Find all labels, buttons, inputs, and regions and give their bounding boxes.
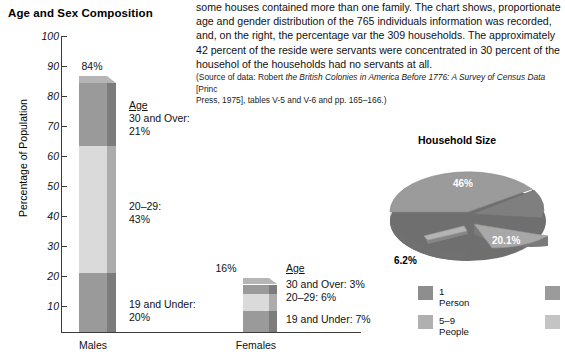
callout-males-30-text: 30 and Over: [129,112,190,125]
y-tick-label: 90 [7,60,59,72]
y-tick-mark [61,306,67,307]
callout-females: Age 30 and Over: 3% 20–29: 6% 19 and Und… [286,262,371,326]
y-tick-mark [61,246,67,247]
y-tick-group: 60 [0,150,59,162]
bar-segment-females-30-and-over [243,285,269,294]
y-tick-label: 60 [7,150,59,162]
source-tail: [Princ [196,84,217,94]
bar-segment-males-19-and-under [79,273,107,332]
y-axis-line [61,36,62,333]
bar-segment-side [269,294,277,312]
y-tick-mark [61,276,67,277]
y-tick-group: 80 [0,90,59,102]
y-tick-group: 50 [0,180,59,192]
bar-segment-side [269,311,277,332]
legend-swatch-icon [418,315,433,329]
callout-heading-males: Age [129,99,148,111]
bar-top-face-males [79,76,116,83]
bar-chart-title: Age and Sex Composition [8,7,153,19]
bar-segment-males-20-29 [79,146,107,273]
body-text-block: some houses contained more than one fami… [196,0,565,107]
y-tick-mark [61,96,67,97]
callout-males-20-29-value: 43% [129,213,161,226]
callout-males-30-value: 21% [129,125,190,138]
bar-segment-females-19-and-under [243,311,269,332]
callout-females-20-29-text: 20–29: 6% [286,291,371,304]
source-citation: (Source of data: Robert the British Colo… [196,72,565,107]
callout-males-30-and-over: Age 30 and Over: 21% [129,99,190,138]
legend-item-5-9-people[interactable]: 5–9 People [418,315,469,338]
y-tick-group: 70 [0,120,59,132]
y-tick-mark [61,186,67,187]
callout-females-19-text: 19 and Under: 7% [286,313,371,326]
callout-males-20-29-text: 20–29: [129,200,161,213]
callout-males-19-and-under: 19 and Under: 20% [129,298,196,324]
y-tick-group: 20 [0,270,59,282]
callout-females-30-text: 30 and Over: 3% [286,278,371,291]
source-last-line: Press, 1975], tables V-5 and V-6 and pp.… [196,95,565,107]
pie-label-6-2: 6.2% [394,255,417,266]
x-axis-line [61,332,361,333]
bar-segment-side [269,285,277,294]
bar-total-label-females: 16% [196,262,256,274]
legend-item-cropped-b[interactable] [545,315,565,329]
y-tick-label: 50 [7,180,59,192]
y-tick-label: 30 [7,240,59,252]
callout-heading-females: Age [286,262,305,274]
legend-item-cropped-a[interactable] [545,286,565,300]
y-tick-group: 90 [0,60,59,72]
x-axis-label-females: Females [211,339,301,351]
legend-item-1-person[interactable]: 1 Person [418,286,469,309]
y-tick-label: 80 [7,90,59,102]
x-axis-label-males: Males [48,339,138,351]
source-lead: (Source of data: Robert [196,72,285,82]
legend-swatch-icon [418,286,433,300]
y-tick-label: 40 [7,210,59,222]
bar-segment-females-20-29 [243,294,269,312]
pie-chart-title: Household Size [418,134,496,146]
y-tick-label: 100 [7,30,59,42]
source-title: the British Colonies in America Before 1… [285,72,545,82]
y-tick-group: 10 [0,300,59,312]
bar-top-face-females [243,278,277,284]
y-tick-group: 100 [0,30,59,42]
y-tick-label: 20 [7,270,59,282]
callout-males-19-text: 19 and Under: [129,298,196,311]
pie-chart-graphic: 46% 20.1% 6.2% [372,156,558,284]
bar-total-label-males: 84% [62,60,122,72]
y-tick-mark [61,156,67,157]
y-tick-mark [61,36,67,37]
y-tick-group: 40 [0,210,59,222]
bar-segment-males-30-and-over [79,83,107,145]
legend-label: 1 Person [439,286,469,309]
pie-label-46: 46% [453,178,473,189]
y-tick-label: 70 [7,120,59,132]
callout-males-20-29: 20–29: 43% [129,200,161,226]
legend-label: 5–9 People [439,315,469,338]
y-tick-label: 10 [7,300,59,312]
legend-swatch-icon [545,286,560,300]
pie-label-20-1: 20.1% [492,235,520,246]
bar-segment-side [107,83,116,145]
y-tick-mark [61,126,67,127]
bar-segment-side [107,146,116,273]
pie-chart-panel: Household Size 46% 20.1% 6.2% [372,118,558,360]
body-paragraph: some houses contained more than one fami… [196,0,565,71]
bar-segment-side [107,273,116,332]
legend-swatch-icon [545,315,560,329]
y-tick-group: 30 [0,240,59,252]
callout-males-19-value: 20% [129,311,196,324]
y-tick-mark [61,216,67,217]
